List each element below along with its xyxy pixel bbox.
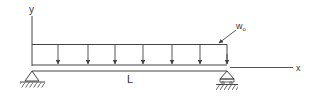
y-axis-label: y	[29, 4, 34, 15]
distributed-load	[32, 45, 227, 65]
pin-support	[20, 71, 45, 88]
x-axis: x	[230, 63, 301, 73]
beam-diagram: y wo x L	[0, 0, 317, 99]
beam	[32, 65, 227, 71]
load-arrows	[58, 45, 227, 64]
length-label: L	[127, 73, 133, 85]
load-label: wo	[219, 21, 247, 43]
roller-support	[216, 71, 238, 90]
load-label-text: wo	[235, 21, 247, 32]
y-axis: y	[29, 4, 34, 66]
x-axis-label: x	[296, 63, 301, 73]
